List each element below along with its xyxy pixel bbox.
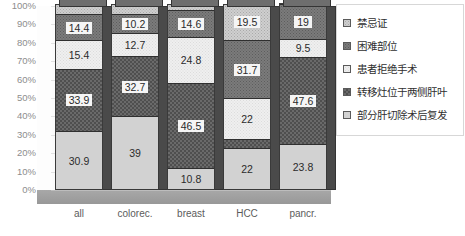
legend-swatch-icon [343, 42, 351, 50]
legend-item-1[interactable]: 困难部位 [343, 34, 460, 57]
bar-top-face [227, 0, 275, 7]
bar-segment-difficult-location[interactable]: 14.4 [56, 15, 102, 41]
y-axis-tick-label: 30% [3, 130, 36, 139]
y-axis: 100%90%80%70%60%50%40%30%20%10%0% [0, 6, 36, 204]
y-axis-tick-label: 40% [3, 111, 36, 120]
bar-segment-bilobar-metastases[interactable]: 46.5 [168, 84, 214, 170]
bar-stack: 14.415.433.930.9 [55, 4, 103, 190]
bar-side-face [327, 6, 336, 190]
bar-segment-difficult-location[interactable]: 19 [280, 5, 326, 40]
bar-segment-difficult-location[interactable]: 14.6 [168, 11, 214, 38]
segment-value-label: 12.7 [122, 39, 148, 51]
y-axis-tick-label: 90% [3, 19, 36, 28]
x-axis-tick-label: breast [161, 208, 221, 219]
bar-stack: 10.212.732.739 [111, 4, 159, 190]
bar-segment-patient-refused-surgery[interactable]: 22 [224, 99, 270, 139]
segment-value-label: 22 [238, 113, 256, 125]
bar-segment-bilobar-metastases[interactable] [224, 140, 270, 149]
segment-value-label: 15.4 [66, 49, 92, 61]
bar-segment-difficult-location[interactable]: 31.7 [224, 41, 270, 99]
bar-segment-patient-refused-surgery[interactable]: 24.8 [168, 38, 214, 84]
legend-item-label: 转移灶位于两侧肝叶 [357, 86, 447, 98]
y-axis-tick-label: 10% [3, 167, 36, 176]
segment-value-label: 14.4 [66, 22, 92, 34]
segment-value-label: 46.5 [178, 120, 204, 132]
bar-segment-recurrence-after-partial-hepatectomy[interactable]: 10.8 [168, 169, 214, 189]
y-axis-tick-label: 0% [3, 185, 36, 194]
segment-value-label: 19.5 [234, 16, 260, 28]
segment-value-label: 23.8 [290, 161, 316, 173]
segment-value-label: 14.6 [178, 18, 204, 30]
legend-swatch-icon [343, 111, 351, 119]
plot-floor [37, 190, 331, 204]
bar-segment-bilobar-metastases[interactable]: 33.9 [56, 70, 102, 132]
x-axis-tick-label: colorec. [105, 208, 165, 219]
x-axis-tick-label: pancr. [273, 208, 333, 219]
y-axis-tick-label: 20% [3, 148, 36, 157]
segment-value-label: 33.9 [66, 94, 92, 106]
segment-value-label: 30.9 [66, 155, 92, 167]
bar-segment-patient-refused-surgery[interactable]: 12.7 [112, 34, 158, 57]
bar-stack: 199.547.623.8 [279, 3, 327, 190]
legend: 禁忌证困难部位患者拒绝手术转移灶位于两侧肝叶部分肝切除术后复发 [336, 4, 464, 136]
legend-item-4[interactable]: 部分肝切除术后复发 [343, 103, 460, 126]
legend-item-label: 困难部位 [357, 40, 397, 52]
x-axis-tick-label: all [49, 208, 109, 219]
bar-segment-patient-refused-surgery[interactable]: 9.5 [280, 40, 326, 57]
bar-segment-difficult-location[interactable]: 10.2 [112, 15, 158, 34]
bar-segment-bilobar-metastases[interactable]: 47.6 [280, 58, 326, 146]
bar-segment-recurrence-after-partial-hepatectomy[interactable]: 39 [112, 117, 158, 189]
legend-item-label: 部分肝切除术后复发 [357, 109, 447, 121]
bar-segment-recurrence-after-partial-hepatectomy[interactable]: 22 [224, 149, 270, 189]
segment-value-label: 47.6 [290, 95, 316, 107]
bar-segment-recurrence-after-partial-hepatectomy[interactable]: 23.8 [280, 145, 326, 189]
bar-top-face [59, 0, 107, 7]
segment-value-label: 19 [294, 16, 312, 28]
y-axis-tick-label: 100% [3, 1, 36, 10]
segment-value-label: 39 [126, 147, 144, 159]
gridline [51, 190, 331, 191]
legend-swatch-icon [343, 65, 351, 73]
segment-value-label: 9.5 [293, 42, 314, 54]
x-axis: allcolorec.breastHCCpancr. [37, 208, 331, 226]
bar-top-face [283, 0, 331, 7]
x-axis-tick-label: HCC [217, 208, 277, 219]
legend-item-label: 患者拒绝手术 [357, 63, 417, 75]
legend-item-0[interactable]: 禁忌证 [343, 11, 460, 34]
segment-value-label: 31.7 [234, 64, 260, 76]
bar-segment-recurrence-after-partial-hepatectomy[interactable]: 30.9 [56, 132, 102, 189]
bar-segment-contraindication[interactable]: 19.5 [224, 5, 270, 41]
bar-group: 14.415.433.930.910.212.732.73914.624.846… [37, 6, 331, 190]
legend-item-2[interactable]: 患者拒绝手术 [343, 57, 460, 80]
stacked-bar-chart: 100%90%80%70%60%50%40%30%20%10%0% 14.415… [0, 0, 465, 236]
y-axis-tick-label: 50% [3, 93, 36, 102]
bar-stack: 19.531.72222 [223, 4, 271, 190]
bar-segment-patient-refused-surgery[interactable]: 15.4 [56, 41, 102, 69]
bar-stack: 14.624.846.510.8 [167, 4, 215, 190]
bar-top-face [115, 0, 163, 7]
segment-value-label: 10.8 [178, 173, 204, 185]
segment-value-label: 10.2 [122, 18, 148, 30]
y-axis-tick-label: 80% [3, 38, 36, 47]
segment-value-label: 22 [238, 163, 256, 175]
legend-swatch-icon [343, 88, 351, 96]
legend-item-3[interactable]: 转移灶位于两侧肝叶 [343, 80, 460, 103]
bar-top-face [171, 0, 219, 7]
segment-value-label: 24.8 [178, 54, 204, 66]
bar-segment-bilobar-metastases[interactable]: 32.7 [112, 57, 158, 117]
segment-value-label: 32.7 [122, 81, 148, 93]
legend-swatch-icon [343, 19, 351, 27]
legend-item-label: 禁忌证 [357, 17, 387, 29]
y-axis-tick-label: 70% [3, 56, 36, 65]
plot-area: 14.415.433.930.910.212.732.73914.624.846… [37, 6, 331, 204]
y-axis-tick-label: 60% [3, 75, 36, 84]
